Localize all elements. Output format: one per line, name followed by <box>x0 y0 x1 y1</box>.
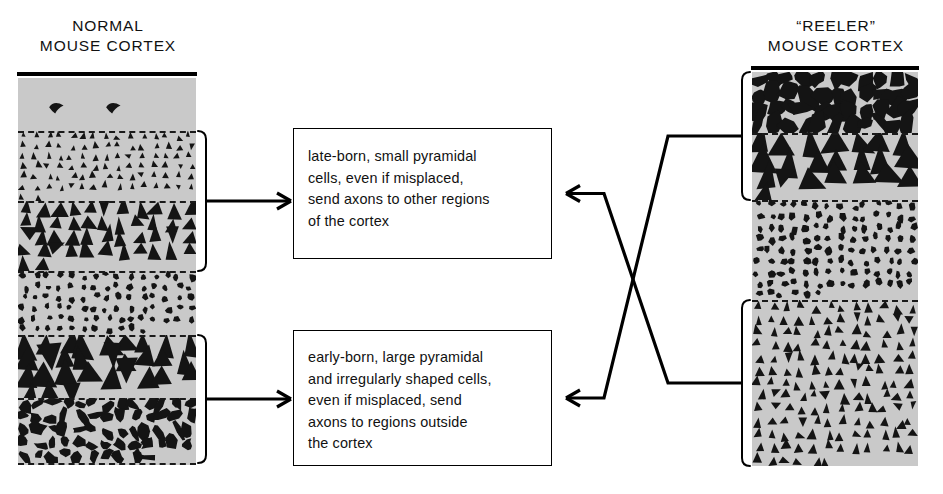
normal-cortex-column <box>18 78 196 465</box>
layer-boundary-line <box>18 463 196 465</box>
layer-boundary-line <box>752 300 918 302</box>
cortical-layer-large-pyramidal <box>752 133 918 200</box>
bracket-normal-lower <box>198 335 206 463</box>
bracket-reeler-upper <box>742 72 750 200</box>
arrowhead-normal-lower <box>277 391 291 407</box>
early-born-text: early-born, large pyramidal and irregula… <box>308 347 551 455</box>
normal-cortex-title: NORMAL MOUSE CORTEX <box>10 16 206 56</box>
arrowhead-reeler-lower <box>566 186 580 202</box>
layer-boundary-line <box>18 398 196 400</box>
cortical-layer-irregular-polymorph <box>18 398 196 463</box>
figure-canvas: NORMAL MOUSE CORTEX “REELER” MOUSE CORTE… <box>0 0 943 494</box>
layer-boundary-line <box>18 335 196 337</box>
late-born-text: late-born, small pyramidal cells, even i… <box>308 146 551 232</box>
early-born-text-box: early-born, large pyramidal and irregula… <box>293 330 552 466</box>
bracket-reeler-lower <box>742 300 750 466</box>
arrowhead-normal-upper <box>277 193 291 209</box>
cortical-layer-marginal-zone <box>18 78 196 131</box>
cortical-layer-small-pyramidal-dense <box>752 300 918 466</box>
late-born-text-box: late-born, small pyramidal cells, even i… <box>293 128 552 259</box>
layer-boundary-line <box>18 131 196 133</box>
reeler-cortex-title: “REELER” MOUSE CORTEX <box>738 16 934 56</box>
reeler-cortex-column <box>752 72 918 466</box>
arrowhead-reeler-upper <box>566 390 580 406</box>
arrow-reeler-lower-to-late-box <box>568 194 742 384</box>
layer-boundary-line <box>752 200 918 202</box>
cortical-layer-granular-small-cells <box>18 271 196 335</box>
pia-line-normal <box>17 72 197 76</box>
arrow-reeler-upper-to-early-box <box>568 136 742 398</box>
cortical-layer-granular-small-cells <box>752 200 918 300</box>
cortical-layer-medium-pyramidal <box>18 201 196 271</box>
layer-boundary-line <box>18 201 196 203</box>
layer-boundary-line <box>752 133 918 135</box>
pia-line-reeler <box>751 66 919 70</box>
layer-boundary-line <box>18 271 196 273</box>
cortical-layer-irregular-polymorph <box>752 72 918 133</box>
cortical-layer-large-pyramidal <box>18 335 196 398</box>
cortical-layer-small-pyramidal-upper <box>18 131 196 201</box>
bracket-normal-upper <box>198 131 206 271</box>
